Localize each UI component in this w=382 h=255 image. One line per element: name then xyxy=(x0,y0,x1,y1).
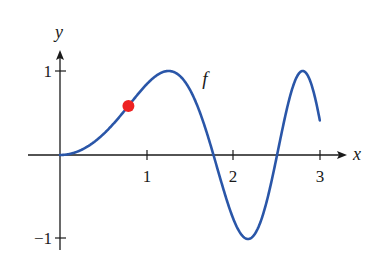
x-tick-label-1: 1 xyxy=(143,167,152,186)
highlighted-point xyxy=(122,100,134,112)
curve-label-f: f xyxy=(202,68,210,89)
y-tick-label-1: 1 xyxy=(44,62,53,81)
x-tick-label-3: 3 xyxy=(316,167,325,186)
x-tick-label-2: 2 xyxy=(229,167,238,186)
function-graph: 1 2 3 1 −1 x y f xyxy=(0,0,382,255)
x-axis-label: x xyxy=(352,144,361,164)
y-tick-label-neg1: −1 xyxy=(34,229,52,248)
y-axis-label: y xyxy=(53,22,63,42)
